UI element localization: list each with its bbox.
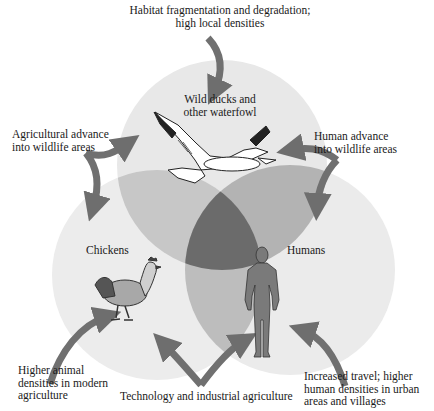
circle-label: Humans — [287, 244, 325, 256]
driver-text-line: areas and villages — [304, 395, 419, 408]
driver-technology-industrial-agriculture: Technology and industrial agriculture — [120, 390, 293, 403]
circle-label-line: other waterfowl — [160, 106, 280, 119]
circle-label-line: Wild ducks and — [160, 93, 280, 106]
driver-text-line: human densities in urban — [304, 383, 419, 396]
driver-text-line: Higher animal — [18, 364, 108, 377]
driver-habitat-fragmentation: Habitat fragmentation and degradation; h… — [90, 4, 350, 29]
driver-text-line: Technology and industrial agriculture — [120, 390, 293, 402]
driver-text-line: into wildlife areas — [314, 143, 397, 156]
driver-text-line: Increased travel; higher — [304, 370, 419, 383]
driver-increased-travel: Increased travel; higher human densities… — [304, 370, 419, 408]
driver-higher-animal-densities: Higher animal densities in modern agricu… — [18, 364, 108, 402]
label-humans: Humans — [287, 244, 325, 257]
driver-text-line: agriculture — [18, 389, 108, 402]
driver-text-line: high local densities — [90, 17, 350, 30]
venn-graphic — [0, 0, 434, 411]
driver-text-line: Agricultural advance — [12, 128, 109, 141]
circle-label: Chickens — [86, 244, 129, 256]
label-chickens: Chickens — [86, 244, 129, 257]
driver-text-line: into wildlife areas — [12, 141, 109, 154]
label-wild-ducks: Wild ducks and other waterfowl — [160, 93, 280, 118]
driver-agricultural-advance: Agricultural advance into wildlife areas — [12, 128, 109, 153]
driver-text-line: densities in modern — [18, 377, 108, 390]
venn-diagram: Habitat fragmentation and degradation; h… — [0, 0, 434, 411]
driver-text-line: Human advance — [314, 130, 397, 143]
driver-text-line: Habitat fragmentation and degradation; — [90, 4, 350, 17]
driver-human-advance: Human advance into wildlife areas — [314, 130, 397, 155]
